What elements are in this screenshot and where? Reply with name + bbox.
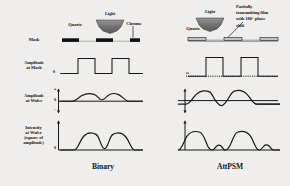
column-caption-attpsm: AttPSM xyxy=(198,163,262,172)
binary-quartz-label: Quartz xyxy=(62,22,88,27)
row-label-mask: Mask xyxy=(14,37,54,42)
binary-amplitude-at-wafer-plus-mark: + xyxy=(51,86,59,92)
attpsm-light-label: Light xyxy=(197,9,223,14)
attpsm-transmitting-film-label: Partially transmitting film with 180° ph… xyxy=(236,4,288,29)
attpsm-amplitude-at-mask-plot xyxy=(186,58,278,77)
binary-intensity-at-wafer-zero-mark: 0 xyxy=(51,146,59,151)
binary-amplitude-at-mask-plot xyxy=(60,59,143,74)
binary-intensity-at-wafer-plot xyxy=(57,120,143,150)
figure-root: Mask Amplitude at Mask Amplitude at Wafe… xyxy=(0,0,290,186)
binary-amplitude-at-wafer-minus-mark: - xyxy=(51,106,59,112)
row-label-amplitude-at-mask: Amplitude at Mask xyxy=(12,60,56,70)
attpsm-intensity-at-wafer-plot xyxy=(178,120,280,150)
attpsm-amplitude-at-wafer-plot xyxy=(178,88,280,113)
binary-amplitude-at-wafer-plot xyxy=(57,88,143,113)
binary-light-label: Light xyxy=(97,11,123,16)
attpsm-quartz-label: Quartz xyxy=(180,26,206,31)
binary-amplitude-at-mask-zero-mark: 0 xyxy=(50,70,58,75)
row-label-amplitude-at-wafer: Amplitude at Wafer xyxy=(12,93,56,103)
binary-amplitude-at-wafer-zero-mark: 0 xyxy=(51,98,59,103)
binary-chrome-label: Chrome xyxy=(120,21,148,26)
row-label-intensity-at-wafer: Intensity at Wafer (square of amplitude) xyxy=(10,125,57,146)
column-caption-binary: Binary xyxy=(76,163,130,172)
